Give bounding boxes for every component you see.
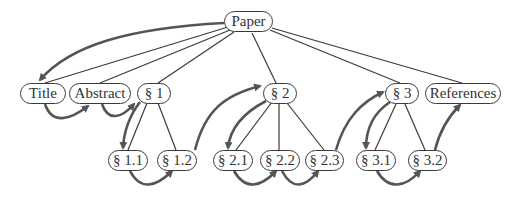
node-s2-1: § 2.1	[213, 150, 253, 171]
node-title: Title	[20, 83, 66, 104]
node-s1: § 1	[137, 83, 171, 104]
node-paper: Paper	[224, 11, 273, 32]
node-s2: § 2	[263, 83, 297, 104]
node-s1-1: § 1.1	[108, 150, 148, 171]
node-s2-2: § 2.2	[260, 150, 300, 171]
node-references: References	[425, 83, 501, 104]
node-s3-2: § 3.2	[408, 150, 447, 171]
node-s2-3: § 2.3	[305, 150, 344, 171]
node-s3-1: § 3.1	[356, 150, 396, 171]
node-s1-2: § 1.2	[157, 150, 197, 171]
node-abstract: Abstract	[69, 83, 131, 104]
node-s3: § 3	[385, 83, 419, 104]
